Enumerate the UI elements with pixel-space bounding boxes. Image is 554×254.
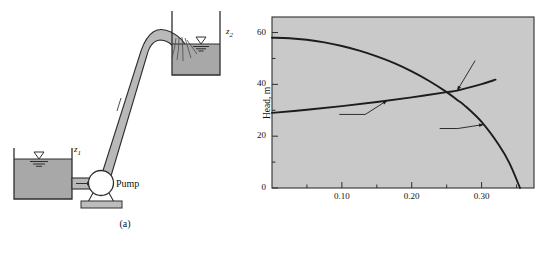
- x-tick-label: 0.30: [467, 191, 497, 201]
- y-tick-label: 40: [248, 78, 266, 88]
- pump-label: Pump: [116, 178, 139, 189]
- pump-base-plate: [81, 201, 122, 208]
- elevation-label-z1: z1: [74, 144, 81, 157]
- y-tick-label: 0: [248, 182, 266, 192]
- schematic-panel: z1 z2 Pump (a): [0, 0, 270, 254]
- upper-free-surface-triangle: [196, 37, 206, 44]
- y-tick-label: 60: [248, 27, 266, 37]
- plot-area-background: [272, 17, 534, 188]
- pipe-centerline-dash: [117, 98, 121, 111]
- elevation-label-z2: z2: [226, 26, 233, 39]
- lower-reservoir-water: [14, 159, 72, 199]
- panel-caption-a: (a): [105, 218, 145, 229]
- chart-panel: Head, m Discharge, m3/s 0.100.200.30 020…: [255, 0, 554, 254]
- x-tick-label: 0.10: [327, 191, 357, 201]
- pump-system-curve-chart: [255, 0, 554, 254]
- y-tick-label: 20: [248, 130, 266, 140]
- pump-body: [89, 171, 114, 196]
- figure-root: z1 z2 Pump (a) Head, m Discharge, m3/s 0…: [0, 0, 554, 254]
- x-tick-label: 0.20: [397, 191, 427, 201]
- lower-free-surface-triangle: [34, 152, 44, 159]
